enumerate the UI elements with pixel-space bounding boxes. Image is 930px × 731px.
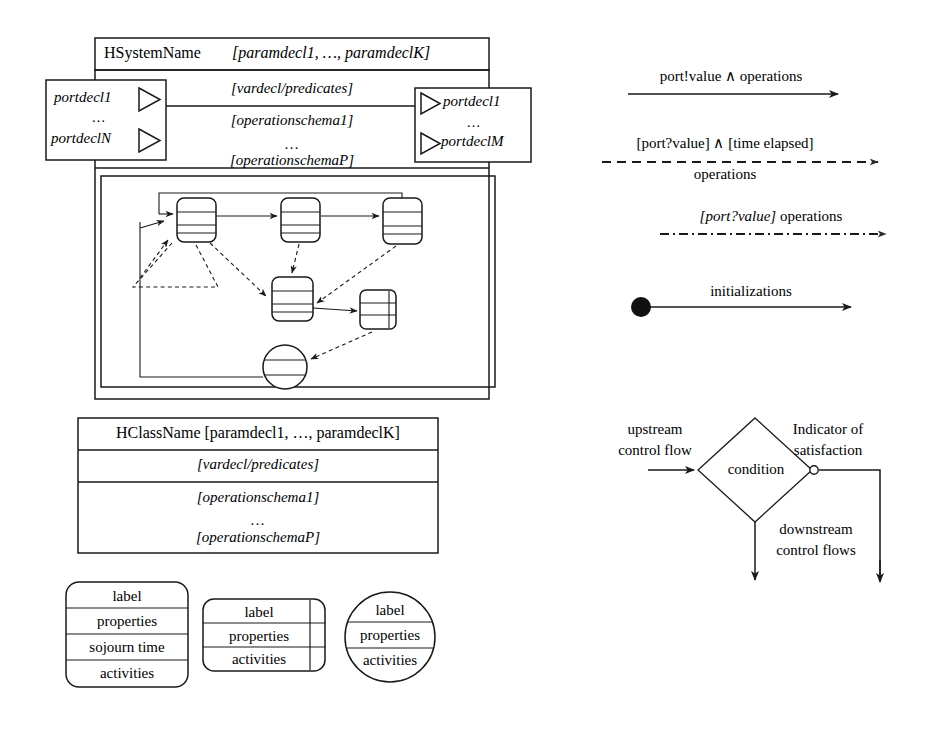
- satisfaction-indicator-icon: [810, 466, 818, 474]
- legend-dashdot-port-text: [port?value]: [700, 208, 777, 224]
- class-row-vardecl: [vardecl/predicates]: [197, 456, 319, 473]
- legend-dashed-arrow-sublabel: operations: [694, 166, 756, 183]
- class-row-opschemaP: [operationschemaP]: [196, 529, 320, 546]
- upstream-label-line1: upstream: [628, 421, 683, 438]
- left-port-first-label: portdecl1: [54, 89, 112, 106]
- left-port-ellipsis: …: [92, 110, 107, 126]
- legend-dashed-arrow-label: [port?value] ∧ [time elapsed]: [636, 135, 813, 152]
- system-row-opschemaP: [operationschemaP]: [230, 152, 354, 169]
- legend-medium-activities: activities: [232, 651, 286, 668]
- upstream-label-line2: control flow: [618, 442, 692, 459]
- legend-dashdot-ops-text: operations: [776, 208, 842, 224]
- legend-circle-activities: activities: [363, 652, 417, 669]
- figure-canvas: HSystemName [paramdecl1, …, paramdeclK] …: [0, 0, 930, 731]
- class-row-opschema1: [operationschema1]: [197, 489, 320, 506]
- class-header-label: HClassName [paramdecl1, …, paramdeclK]: [116, 424, 400, 442]
- legend-circle-properties: properties: [360, 627, 420, 644]
- state-node-s4: [272, 277, 313, 321]
- state-node-s6: [263, 345, 307, 389]
- condition-label: condition: [728, 461, 785, 478]
- filled-dot-icon: [631, 297, 651, 317]
- right-port-last-label: portdeclM: [441, 133, 503, 150]
- downstream-label-line2: control flows: [776, 542, 856, 559]
- legend-wide-properties: properties: [97, 613, 157, 630]
- system-row-ellipsis: …: [284, 136, 300, 153]
- legend-wide-label: label: [112, 588, 141, 605]
- state-node-s3: [383, 198, 422, 244]
- state-node-s1: [177, 198, 216, 242]
- indicator-label-line1: Indicator of: [793, 421, 863, 438]
- legend-circle-label: label: [375, 602, 404, 619]
- legend-dashdot-arrow-label: [port?value] operations: [700, 208, 843, 225]
- legend-solid-arrow-label: port!value ∧ operations: [660, 68, 803, 85]
- legend-wide-activities: activities: [100, 665, 154, 682]
- state-node-s2: [281, 198, 320, 242]
- legend-medium-properties: properties: [229, 628, 289, 645]
- legend-initialization-label: initializations: [710, 283, 792, 300]
- state-node-s5: [360, 290, 396, 329]
- system-row-vardecl: [vardecl/predicates]: [231, 80, 353, 97]
- legend-medium-label: label: [244, 604, 273, 621]
- system-params-label: [paramdecl1, …, paramdeclK]: [232, 44, 430, 62]
- right-port-first-label: portdecl1: [443, 93, 501, 110]
- statechart-dashed-transitions: [133, 240, 396, 359]
- class-row-ellipsis: …: [250, 512, 266, 529]
- left-port-last-label: portdeclN: [51, 130, 111, 147]
- system-name-label: HSystemName: [104, 44, 201, 62]
- downstream-label-line1: downstream: [779, 521, 852, 538]
- right-port-ellipsis: …: [467, 115, 482, 131]
- legend-wide-sojourn: sojourn time: [89, 639, 164, 656]
- system-row-opschema1: [operationschema1]: [231, 112, 354, 129]
- indicator-label-line2: satisfaction: [794, 442, 862, 459]
